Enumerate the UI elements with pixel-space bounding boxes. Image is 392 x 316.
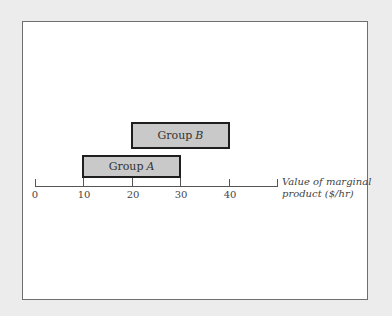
x-tick-label-40: 40 [224,189,237,200]
x-axis-tick-40 [229,179,230,187]
x-axis-line [35,186,278,187]
group-a-label-letter: A [146,160,154,173]
x-tick-label-10: 10 [78,189,91,200]
x-axis-tick-end [277,179,278,187]
group-b-label-letter: B [195,129,203,142]
group-b-label-prefix: Group [158,129,193,142]
x-tick-label-20: 20 [127,189,140,200]
x-axis-tick-start [35,179,36,187]
x-tick-label-30: 30 [175,189,188,200]
group-a-bar: GroupA [82,155,181,178]
group-b-bar: GroupB [131,122,230,149]
x-axis-title-line1: Value of marginal [282,176,371,188]
x-axis-tick-20 [132,178,133,187]
figure-panel [22,21,368,300]
x-axis-tick-30 [180,178,181,187]
x-axis-title-line2: product ($/hr) [282,188,371,200]
x-tick-label-0: 0 [32,189,38,200]
group-a-label-prefix: Group [109,160,144,173]
x-axis-tick-10 [83,178,84,187]
x-axis-title: Value of marginal product ($/hr) [282,176,371,200]
